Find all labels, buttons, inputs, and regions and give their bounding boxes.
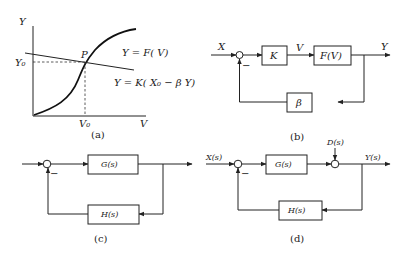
curve-f-label: Y = F( V) <box>122 47 169 58</box>
signal-v-label: V <box>296 42 305 53</box>
v0-label: V₀ <box>79 118 90 129</box>
block-beta-label: β <box>295 97 302 108</box>
panel-b-diagram: X K V F(V) Y β − (b) <box>211 41 390 142</box>
summing-junction-2 <box>331 160 339 168</box>
disturbance-ds-label: D(s) <box>326 138 344 147</box>
output-ys-label: Y(s) <box>365 153 381 162</box>
summing-junction <box>43 160 51 168</box>
x-axis-label: V <box>140 118 149 129</box>
input-xs-label: X(s) <box>205 153 222 162</box>
panel-a-graph: Y V Y₀ V₀ P Y = F( V) Y = K( X₀ − β Y) (… <box>15 16 195 140</box>
minus-sign: − <box>241 168 249 179</box>
block-h-label: H(s) <box>287 206 305 215</box>
line-k-x0-beta-y <box>25 53 134 70</box>
block-g-label: G(s) <box>275 160 292 169</box>
block-g-label: G(s) <box>101 160 118 169</box>
caption-b: (b) <box>290 131 304 142</box>
block-f-label: F(V) <box>319 50 342 61</box>
block-k-label: K <box>269 50 278 61</box>
feedback-path-right <box>322 164 362 210</box>
diagram-canvas: Y V Y₀ V₀ P Y = F( V) Y = K( X₀ − β Y) (… <box>0 0 407 259</box>
point-p-label: P <box>80 49 88 60</box>
caption-d: (d) <box>290 233 304 244</box>
curve-k-label: Y = K( X₀ − β Y) <box>114 77 195 88</box>
output-y-label: Y <box>381 41 389 52</box>
y0-label: Y₀ <box>15 57 26 68</box>
caption-a: (a) <box>91 129 105 140</box>
panel-d-diagram: X(s) G(s) D(s) Y(s) H(s) − (d) <box>205 138 390 244</box>
block-h-label: H(s) <box>100 210 118 219</box>
y-axis-label: Y <box>19 16 27 27</box>
summing-junction <box>236 52 243 59</box>
feedback-path-right <box>139 164 163 214</box>
panel-c-diagram: G(s) H(s) − (c) <box>22 155 192 244</box>
minus-sign: − <box>50 168 58 179</box>
input-x-label: X <box>217 41 226 52</box>
summing-junction-1 <box>234 160 242 168</box>
caption-c: (c) <box>94 233 108 244</box>
minus-sign: − <box>242 60 250 71</box>
